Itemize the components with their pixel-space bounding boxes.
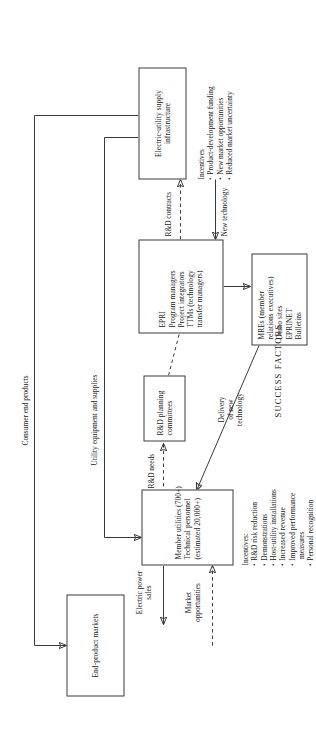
diagram-title-text: SUCCESS FACTORS [272,323,282,417]
node-line: TTMs (technology [185,270,194,327]
incentives-item: New market opportunities [215,86,224,179]
node-line: Member utilities (700+) [173,486,182,559]
node-line: R&D planning [155,390,164,435]
edge-label-text: Market [183,591,192,612]
node-line: infrastructure [162,102,171,143]
rotated-page-wrapper: End-product markets Member utilities (70… [0,0,291,741]
edge-label-market-opportunities: Market opportunities [183,567,201,637]
node-line: (estimated 20,000+) [192,498,201,559]
edge-label-text: Utility equipment and supplies [89,374,98,465]
node-rd-planning-committees[interactable]: R&D planning committees [143,375,185,441]
incentives-item: Improved performance [287,489,291,565]
node-line: Electric-utility supply [153,90,162,157]
edge-label-text: New technology [219,187,228,236]
incentives-heading: Incentives: [240,489,249,565]
edge-label-new-technology: New technology [219,187,228,236]
node-line: Technical personnel [182,498,191,559]
edge-label-utility-equipment-and-supplies: Utility equipment and supplies [89,374,98,465]
node-end-product-markets[interactable]: End-product markets [66,594,124,696]
wire-consumer-end-products [34,115,138,645]
incentives-item: Increased revenue [277,489,286,565]
incentives-item: Host-utility installations [268,489,277,565]
edge-label-text: R&D needs [146,453,155,488]
edge-label-electric-power-sales: Electric power sales [134,557,152,627]
node-line: EPRI [157,311,166,327]
node-line: Project integrators [176,271,185,327]
node-line: MREs (member [256,290,265,339]
flowchart-canvas: End-product markets Member utilities (70… [0,0,291,741]
edge-label-rd-contracts: R&D contracts [163,191,172,236]
incentives-utilities-list: Incentives: R&D risk reduction Demonstra… [240,489,291,565]
incentives-item: Demonstrations [259,489,268,565]
edge-label-text: R&D contracts [163,191,172,236]
incentives-heading: Incentives [196,86,205,179]
edge-label-consumer-end-products: Consumer end products [20,375,29,445]
incentives-item: R&D risk reduction [249,489,258,565]
node-line: transfer managers) [194,270,203,327]
edge-label-text: sales [143,585,152,599]
edge-label-text: of new [225,399,234,419]
node-epri[interactable]: EPRI Program managers Project integrator… [138,239,223,333]
diagram-title: SUCCESS FACTORS [272,323,282,417]
node-line: committees [164,400,173,435]
edge-label-rd-needs: R&D needs [146,453,155,488]
node-line: End-product markets [90,613,99,677]
node-line: EPRINET [284,308,291,339]
edge-label-text: Delivery [216,396,225,422]
edge-label-text: Consumer end products [20,375,29,445]
edge-label-text: technology [234,393,243,426]
wire-utility-equipment [104,137,141,537]
node-mres[interactable]: MREs (member relations executives) Demo … [251,253,291,345]
edge-label-text: opportunities [192,583,201,622]
node-member-utilities[interactable]: Member utilities (700+) Technical person… [141,489,233,565]
incentives-suppliers-list: Incentives Product-development funding N… [196,86,233,179]
edge-label-text: Electric power [134,570,143,613]
incentives-item: Reduced market uncertainty [224,86,233,179]
node-electric-utility-supply-infrastructure[interactable]: Electric-utility supply infrastructure [138,67,186,179]
edge-label-delivery-of-new-technology: Delivery of new technology [216,377,243,441]
node-line: Program managers [167,270,176,327]
incentives-item: Product-development funding [205,86,214,179]
